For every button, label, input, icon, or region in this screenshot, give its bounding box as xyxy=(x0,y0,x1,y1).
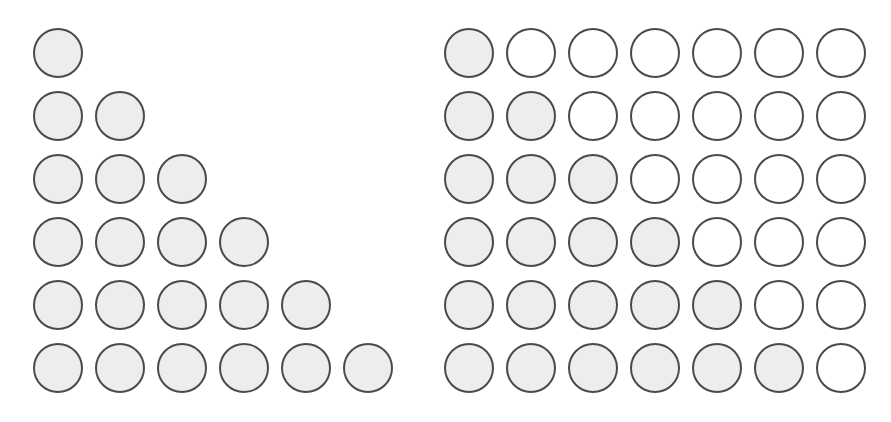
filled-circle xyxy=(33,280,83,330)
filled-circle xyxy=(444,343,494,393)
filled-circle xyxy=(33,217,83,267)
panel-triangle xyxy=(0,0,420,422)
filled-circle xyxy=(568,217,618,267)
filled-circle xyxy=(630,343,680,393)
empty-circle xyxy=(754,28,804,78)
empty-circle xyxy=(692,28,742,78)
empty-circle xyxy=(754,91,804,141)
empty-circle xyxy=(754,280,804,330)
circle-row xyxy=(0,280,372,330)
circle-row xyxy=(0,343,372,393)
circle-row xyxy=(420,217,854,267)
filled-circle xyxy=(506,343,556,393)
empty-circle xyxy=(816,91,866,141)
circle-row xyxy=(420,28,854,78)
filled-circle xyxy=(754,343,804,393)
filled-circle xyxy=(219,217,269,267)
circle-row xyxy=(0,28,372,78)
filled-circle xyxy=(630,280,680,330)
empty-circle xyxy=(816,343,866,393)
empty-circle xyxy=(754,217,804,267)
circle-row xyxy=(420,343,854,393)
filled-circle xyxy=(506,91,556,141)
filled-circle xyxy=(444,91,494,141)
filled-circle xyxy=(95,343,145,393)
filled-circle xyxy=(95,217,145,267)
filled-circle xyxy=(444,280,494,330)
empty-circle xyxy=(816,217,866,267)
filled-circle xyxy=(33,28,83,78)
filled-circle xyxy=(33,343,83,393)
empty-circle xyxy=(630,91,680,141)
filled-circle xyxy=(506,154,556,204)
circle-row xyxy=(0,154,372,204)
filled-circle xyxy=(568,343,618,393)
empty-circle xyxy=(816,28,866,78)
empty-circle xyxy=(816,280,866,330)
filled-circle xyxy=(281,343,331,393)
filled-circle xyxy=(692,343,742,393)
circle-row xyxy=(420,91,854,141)
empty-circle xyxy=(692,91,742,141)
triangular-number-figure xyxy=(0,0,891,422)
filled-circle xyxy=(506,280,556,330)
filled-circle xyxy=(444,217,494,267)
panel-rectangle xyxy=(420,0,891,422)
filled-circle xyxy=(219,280,269,330)
empty-circle xyxy=(816,154,866,204)
filled-circle xyxy=(343,343,393,393)
circle-row xyxy=(0,217,372,267)
filled-circle xyxy=(444,28,494,78)
filled-circle xyxy=(157,280,207,330)
filled-circle xyxy=(95,280,145,330)
filled-circle xyxy=(630,217,680,267)
filled-circle xyxy=(33,91,83,141)
filled-circle xyxy=(95,154,145,204)
filled-circle xyxy=(568,154,618,204)
filled-circle xyxy=(692,280,742,330)
empty-circle xyxy=(506,28,556,78)
circle-row xyxy=(420,154,854,204)
filled-circle xyxy=(506,217,556,267)
filled-circle xyxy=(95,91,145,141)
empty-circle xyxy=(568,91,618,141)
empty-circle xyxy=(692,217,742,267)
empty-circle xyxy=(630,28,680,78)
filled-circle xyxy=(157,343,207,393)
empty-circle xyxy=(692,154,742,204)
circle-row xyxy=(0,91,372,141)
filled-circle xyxy=(157,217,207,267)
circle-row xyxy=(420,280,854,330)
filled-circle xyxy=(568,280,618,330)
filled-circle xyxy=(281,280,331,330)
filled-circle xyxy=(157,154,207,204)
filled-circle xyxy=(33,154,83,204)
empty-circle xyxy=(568,28,618,78)
filled-circle xyxy=(444,154,494,204)
empty-circle xyxy=(630,154,680,204)
filled-circle xyxy=(219,343,269,393)
empty-circle xyxy=(754,154,804,204)
